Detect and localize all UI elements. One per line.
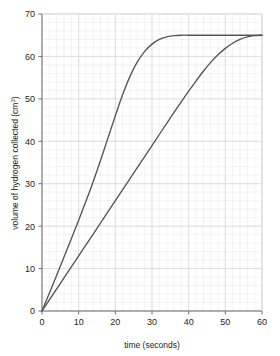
x-tick-label: 10 <box>74 317 84 327</box>
x-tick-label: 50 <box>220 317 230 327</box>
y-tick-label: 10 <box>25 264 35 274</box>
x-tick-label: 0 <box>39 317 44 327</box>
y-tick-label: 60 <box>25 52 35 62</box>
y-tick-label: 40 <box>25 137 35 147</box>
y-tick-label: 30 <box>25 179 35 189</box>
x-tick-label: 30 <box>147 317 157 327</box>
x-tick-label: 40 <box>184 317 194 327</box>
x-tick-label: 60 <box>257 317 267 327</box>
y-axis-title-base: volume of hydrogen collected (cm <box>10 103 20 230</box>
volume-vs-time-line-chart: 0102030405060 010203040506070 time (seco… <box>0 0 280 356</box>
x-tick-label: 20 <box>110 317 120 327</box>
chart-figure: 0102030405060 010203040506070 time (seco… <box>0 0 280 356</box>
x-axis-title: time (seconds) <box>124 340 180 350</box>
y-axis-title-tail: ) <box>10 96 20 99</box>
y-tick-label: 20 <box>25 222 35 232</box>
y-tick-label: 0 <box>30 306 35 316</box>
y-axis-title: volume of hydrogen collected (cm3) <box>10 96 20 229</box>
y-tick-label: 70 <box>25 9 35 19</box>
y-tick-label: 50 <box>25 94 35 104</box>
